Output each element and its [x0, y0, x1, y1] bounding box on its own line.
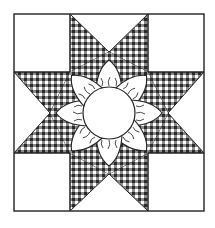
quilt-block-illustration — [0, 0, 215, 228]
flower-center — [83, 87, 135, 139]
